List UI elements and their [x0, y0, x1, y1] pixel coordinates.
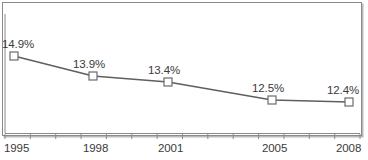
x-axis-ticks	[5, 134, 360, 139]
x-axis-label: 2005	[262, 142, 287, 154]
x-axis-label: 2008	[336, 142, 361, 154]
data-label: 13.4%	[148, 64, 180, 76]
data-point-marker	[268, 96, 276, 104]
data-point-marker	[345, 98, 353, 106]
data-point-marker	[10, 52, 18, 60]
data-point-marker	[89, 72, 97, 80]
x-axis-label: 1998	[83, 142, 108, 154]
series-markers	[10, 52, 353, 106]
data-label: 13.9%	[73, 58, 105, 70]
x-axis-label: 1995	[4, 142, 29, 154]
data-point-marker	[164, 78, 172, 86]
line-chart: 14.9%13.9%13.4%12.5%12.4% 19951998200120…	[0, 0, 368, 160]
x-axis-label: 2001	[158, 142, 183, 154]
data-label: 14.9%	[2, 38, 34, 50]
data-label: 12.4%	[327, 84, 359, 96]
series-line	[14, 56, 349, 102]
data-label: 12.5%	[252, 82, 284, 94]
chart-canvas	[0, 0, 368, 160]
